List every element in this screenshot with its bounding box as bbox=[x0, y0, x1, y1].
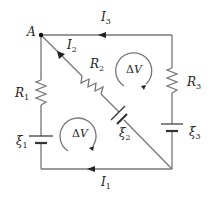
lower-loop-label: ΔV bbox=[72, 128, 88, 139]
upper-loop-label: ΔV bbox=[126, 64, 142, 75]
label-r1: R1 bbox=[15, 87, 29, 102]
label-r2: R2 bbox=[90, 58, 104, 73]
node-a-label: A bbox=[27, 26, 36, 38]
diagonal-wire-lower bbox=[124, 120, 172, 169]
resistor-r3 bbox=[167, 68, 177, 93]
diagonal-wire-mid bbox=[101, 94, 119, 112]
resistor-r1 bbox=[36, 80, 46, 105]
node-a-dot bbox=[39, 33, 43, 37]
label-i1: I1 bbox=[101, 176, 111, 191]
label-xi2: ξ2 bbox=[119, 127, 131, 142]
current-i3-arrow-icon bbox=[98, 32, 106, 38]
label-r3: R3 bbox=[187, 76, 201, 91]
label-xi3: ξ3 bbox=[189, 126, 201, 141]
resistor-r2 bbox=[81, 76, 103, 94]
label-i3: I3 bbox=[101, 11, 111, 26]
lower-loop-arrow-icon bbox=[89, 146, 94, 151]
label-xi1: ξ1 bbox=[16, 135, 28, 150]
label-i2: I2 bbox=[67, 39, 77, 54]
upper-loop-arrow-icon bbox=[141, 85, 146, 90]
current-i1-arrow-icon bbox=[87, 166, 95, 172]
battery-xi2-short-plate bbox=[117, 114, 127, 124]
